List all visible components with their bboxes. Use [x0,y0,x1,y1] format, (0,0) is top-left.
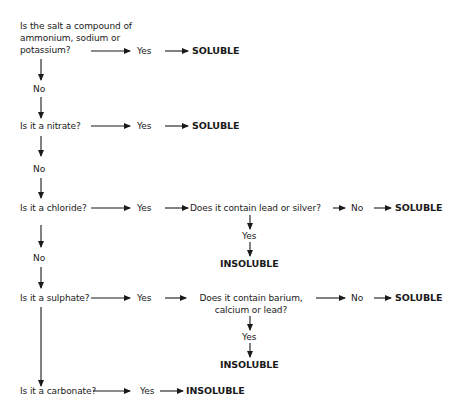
result-soluble: SOLUBLE [192,120,239,132]
no-label: No [351,292,363,304]
question-line: Does it contain barium, [195,292,307,304]
question-line: potassium? [20,44,132,56]
question-salt-compound: Is the salt a compound of ammonium, sodi… [20,20,132,56]
question-chloride: Is it a chloride? [20,202,87,214]
yes-label: Yes [137,120,151,132]
result-insoluble: INSOLUBLE [186,385,245,397]
result-insoluble: INSOLUBLE [220,258,279,270]
question-carbonate: Is it a carbonate? [20,385,96,397]
question-line: ammonium, sodium or [20,32,132,44]
yes-label: Yes [242,230,256,242]
yes-label: Yes [242,331,256,343]
no-label: No [33,83,45,95]
no-label: No [33,252,45,264]
question-lead-or-silver: Does it contain lead or silver? [190,202,321,214]
yes-label: Yes [137,292,151,304]
no-label: No [351,202,363,214]
result-soluble: SOLUBLE [192,45,239,57]
result-soluble: SOLUBLE [395,292,442,304]
no-label: No [33,163,45,175]
question-nitrate: Is it a nitrate? [20,120,81,132]
result-insoluble: INSOLUBLE [220,359,279,371]
question-line: Is the salt a compound of [20,20,132,32]
yes-label: Yes [137,202,151,214]
question-line: calcium or lead? [195,304,307,316]
yes-label: Yes [137,45,151,57]
question-barium-calcium-lead: Does it contain barium, calcium or lead? [195,292,307,316]
result-soluble: SOLUBLE [395,202,442,214]
yes-label: Yes [140,385,154,397]
question-sulphate: Is it a sulphate? [20,292,89,304]
